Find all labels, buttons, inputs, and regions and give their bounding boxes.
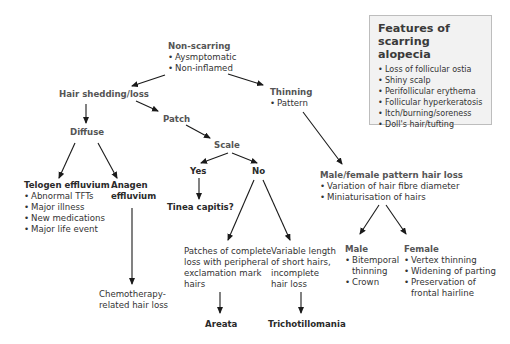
node-pattern-hair-loss: Male/female pattern hair loss Variation …	[320, 170, 463, 203]
node-telogen-effluvium: Telogen effluvium Abnormal TFTs Major il…	[24, 180, 110, 235]
arrow-scale-to-yes	[201, 153, 228, 163]
node-patches-complete-loss: Patches of complete loss with peripheral…	[184, 246, 271, 290]
features-item: Loss of follicular ostia	[378, 64, 483, 75]
node-thinning: Thinning Pattern	[270, 87, 312, 109]
node-trichotillomania: Trichotillomania	[268, 319, 346, 330]
node-male: Male Bitemporal thinning Crown	[345, 244, 399, 288]
features-box-title: Features of scarring alopecia	[378, 22, 483, 61]
arrow-scale-to-no	[232, 153, 257, 163]
features-item: Doll's hair/tufting	[378, 119, 483, 130]
features-item: Itch/burning/soreness	[378, 108, 483, 119]
node-diffuse: Diffuse	[70, 127, 104, 138]
arrow-diffuse-to-anagen	[98, 143, 117, 178]
node-female: Female Vertex thinning Widening of parti…	[404, 244, 496, 299]
arrow-diffuse-to-telogen	[59, 143, 75, 178]
node-tinea-capitis: Tinea capitis?	[167, 202, 234, 213]
node-variable-length: Variable length of short hairs, incomple…	[271, 246, 336, 290]
node-scale: Scale	[214, 140, 240, 151]
node-yes: Yes	[190, 166, 206, 177]
node-anagen-effluvium: Anagen effluvium	[111, 180, 156, 202]
arrow-shedding-to-patch	[136, 101, 158, 111]
arrow-patch-to-scale	[186, 125, 210, 138]
arrow-nonscarring-to-shedding	[132, 75, 165, 86]
arrow-pattern-to-female	[386, 205, 406, 234]
node-non-scarring: Non-scarring Aysmptomatic Non-inflamed	[168, 41, 236, 74]
features-item: Perifollicular erythema	[378, 86, 483, 97]
features-list: Loss of follicular ostia Shiny scalp Per…	[378, 64, 483, 130]
arrow-nonscarring-to-thinning	[228, 74, 263, 85]
features-of-scarring-alopecia-box: Features of scarring alopecia Loss of fo…	[369, 15, 492, 125]
node-areata: Areata	[205, 319, 237, 330]
arrow-thinning-to-pattern	[303, 112, 342, 164]
node-no: No	[252, 166, 265, 177]
features-item: Shiny scalp	[378, 75, 483, 86]
node-hair-shedding: Hair shedding/loss	[59, 89, 149, 100]
features-item: Follicular hyperkeratosis	[378, 97, 483, 108]
arrow-pattern-to-male	[360, 205, 379, 234]
node-chemotherapy: Chemotherapy- related hair loss	[99, 289, 168, 311]
node-patch: Patch	[163, 114, 190, 125]
arrow-no-to-variable	[263, 180, 290, 240]
